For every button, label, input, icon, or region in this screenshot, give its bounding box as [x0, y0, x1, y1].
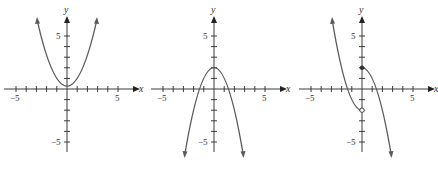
x-tick-label-5: 5 [262, 93, 267, 103]
y-tick-label-neg5: −5 [198, 137, 208, 147]
graph-1-canvas: y x −5 5 5 −5 [0, 0, 146, 178]
graph-panel-1: y x −5 5 5 −5 [0, 0, 146, 178]
curve-arrow-icon [389, 151, 394, 158]
x-tick-label-5: 5 [115, 93, 120, 103]
curve-arrow-icon [241, 151, 246, 158]
curve-arrow-icon [94, 17, 99, 24]
y-axis-arrow-icon [64, 16, 70, 23]
curve-arrow-icon [330, 17, 335, 24]
x-axis-label: x [138, 83, 144, 94]
curve-arrow-icon [35, 17, 40, 24]
curve-arrow-icon [183, 151, 188, 158]
x-tick-label-neg5: −5 [157, 93, 167, 103]
graph-panel-3: y x −5 5 5 −5 [292, 0, 438, 178]
y-axis-label: y [358, 4, 364, 15]
x-axis-label: x [433, 83, 438, 94]
y-axis-arrow-icon [211, 16, 217, 23]
y-tick-label-5: 5 [203, 31, 208, 41]
y-tick-label-5: 5 [56, 31, 61, 41]
y-axis-label: y [210, 4, 216, 15]
x-tick-label-5: 5 [410, 93, 415, 103]
open-circle-endpoint [360, 108, 364, 112]
graph-2-canvas: y x −5 5 5 −5 [146, 0, 292, 178]
y-tick-label-neg5: −5 [346, 137, 356, 147]
right-branch-curve [362, 68, 391, 154]
x-tick-label-neg5: −5 [10, 93, 20, 103]
y-tick-label-5: 5 [351, 31, 356, 41]
y-axis-arrow-icon [359, 16, 365, 23]
graph-3-canvas: y x −5 5 5 −5 [292, 0, 438, 178]
x-axis-label: x [285, 83, 291, 94]
y-tick-label-neg5: −5 [51, 137, 61, 147]
graph-panel-2: y x −5 5 5 −5 [146, 0, 292, 178]
y-axis-label: y [63, 4, 69, 15]
x-tick-label-neg5: −5 [305, 93, 315, 103]
filled-circle-endpoint [360, 66, 364, 70]
left-branch-curve [332, 21, 362, 110]
